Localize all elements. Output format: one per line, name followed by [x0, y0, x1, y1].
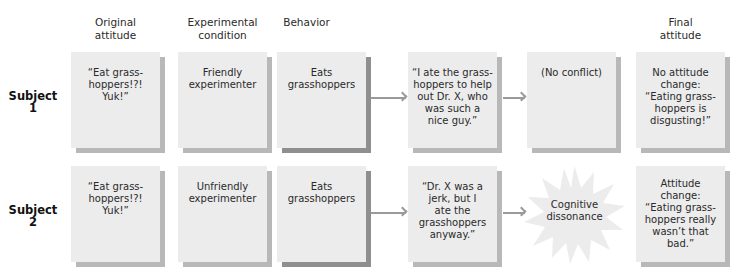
row1-final-attitude-text: No attitude change: “Eating grass- hoppe… [636, 67, 725, 127]
row1-justification-text: “I ate the grass- hoppers to help out Dr… [408, 67, 497, 127]
header-experimental-condition: Experimental condition [172, 16, 273, 41]
arrow-right-icon [503, 97, 525, 99]
row2-final-attitude-box: Attitude change: “Eating grass- hoppers … [636, 166, 725, 262]
row2-justification-text: “Dr. X was a jerk, but I ate the grassho… [408, 181, 497, 241]
arrow-right-icon [371, 212, 406, 214]
row2-original-attitude-box: “Eat grass- hoppers!?! Yuk!” [71, 166, 160, 262]
header-final-attitude: Final attitude [636, 16, 725, 41]
row1-original-attitude-text: “Eat grass- hoppers!?! Yuk!” [71, 67, 160, 103]
dissonance-diagram: Original attitude Experimental condition… [0, 0, 755, 279]
row2-conflict-text: Cognitive dissonance [522, 199, 627, 223]
row1-justification-box: “I ate the grass- hoppers to help out Dr… [408, 52, 497, 148]
row2-experimental-condition-box: Unfriendly experimenter [178, 166, 267, 262]
row1-final-attitude-box: No attitude change: “Eating grass- hoppe… [636, 52, 725, 148]
row1-conflict-text: (No conflict) [527, 67, 616, 79]
row1-original-attitude-box: “Eat grass- hoppers!?! Yuk!” [71, 52, 160, 148]
row2-justification-box: “Dr. X was a jerk, but I ate the grassho… [408, 166, 497, 262]
header-behavior: Behavior [262, 16, 351, 29]
row2-behavior-text: Eats grasshoppers [277, 181, 366, 205]
row2-final-attitude-text: Attitude change: “Eating grass- hoppers … [636, 178, 725, 250]
row1-conflict-box: (No conflict) [527, 52, 616, 148]
subject-2-label: Subject 2 [8, 204, 58, 228]
row2-behavior-box: Eats grasshoppers [277, 166, 366, 262]
row1-experimental-condition-box: Friendly experimenter [178, 52, 267, 148]
row1-behavior-text: Eats grasshoppers [277, 67, 366, 91]
arrow-right-icon [371, 97, 406, 99]
row1-behavior-box: Eats grasshoppers [277, 52, 366, 148]
row1-experimental-condition-text: Friendly experimenter [178, 67, 267, 91]
row2-experimental-condition-text: Unfriendly experimenter [178, 181, 267, 205]
subject-1-label: Subject 1 [8, 90, 58, 114]
header-original-attitude: Original attitude [71, 16, 160, 41]
row2-original-attitude-text: “Eat grass- hoppers!?! Yuk!” [71, 181, 160, 217]
